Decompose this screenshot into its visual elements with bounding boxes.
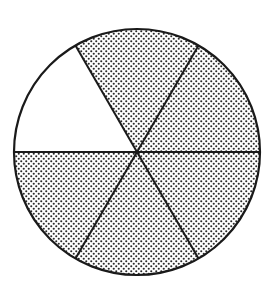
fraction-circle-diagram	[0, 0, 274, 297]
